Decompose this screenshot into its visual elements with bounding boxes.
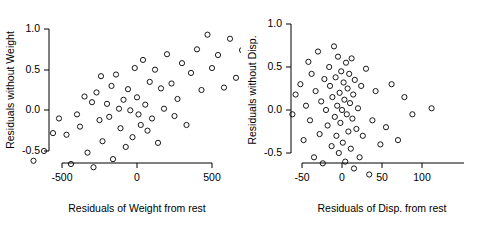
data-point bbox=[313, 88, 318, 93]
data-point bbox=[349, 116, 354, 121]
data-point bbox=[340, 140, 345, 145]
data-point bbox=[121, 97, 126, 102]
data-point bbox=[136, 112, 141, 117]
data-point bbox=[130, 135, 135, 140]
panel-weight: -500 0 500 -0.5 0.0 0.5 1.0 Residuals of… bbox=[0, 0, 242, 240]
x-tick-label: -500 bbox=[51, 171, 72, 183]
data-point bbox=[297, 82, 302, 87]
data-point bbox=[338, 69, 343, 74]
data-point bbox=[357, 155, 362, 160]
y-axis-weight: -0.5 0.0 0.5 1.0 bbox=[22, 22, 49, 156]
data-point bbox=[100, 139, 105, 144]
data-point bbox=[97, 117, 102, 122]
y-axis-label: Residuals without Weight bbox=[4, 31, 16, 149]
data-point bbox=[303, 103, 308, 108]
data-point bbox=[89, 100, 94, 105]
y-tick-label: 1.0 bbox=[267, 17, 282, 29]
data-point bbox=[107, 114, 112, 119]
y-axis-disp: -0.5 0.0 0.5 1.0 bbox=[263, 17, 290, 158]
data-point bbox=[311, 155, 316, 160]
data-point bbox=[363, 66, 368, 71]
data-point bbox=[349, 56, 354, 61]
y-tick-label: 0.0 bbox=[25, 103, 40, 115]
data-point bbox=[307, 118, 312, 123]
data-point bbox=[341, 97, 346, 102]
data-point bbox=[143, 102, 148, 107]
data-point bbox=[125, 87, 130, 92]
x-tick-label: 0 bbox=[339, 171, 345, 183]
data-point bbox=[309, 71, 314, 76]
data-point bbox=[31, 158, 36, 163]
data-point bbox=[56, 116, 61, 121]
data-point bbox=[209, 65, 214, 70]
data-point bbox=[91, 165, 96, 170]
data-point bbox=[409, 112, 414, 117]
data-point bbox=[132, 65, 137, 70]
data-point bbox=[145, 128, 150, 133]
data-point bbox=[373, 88, 378, 93]
y-tick-label: 1.0 bbox=[25, 22, 40, 34]
data-point bbox=[339, 107, 344, 112]
data-point bbox=[94, 90, 99, 95]
data-point bbox=[128, 108, 133, 113]
scatter-plot-weight: -500 0 500 -0.5 0.0 0.5 1.0 Residuals of… bbox=[0, 0, 241, 240]
data-point bbox=[336, 150, 341, 155]
data-point bbox=[123, 144, 128, 149]
data-point bbox=[110, 157, 115, 162]
data-point bbox=[113, 72, 118, 77]
data-point bbox=[175, 96, 180, 101]
data-point bbox=[104, 101, 109, 106]
data-point bbox=[68, 161, 73, 166]
data-point bbox=[227, 36, 232, 41]
x-axis-disp: -50 0 50 100 bbox=[294, 163, 464, 183]
scatter-panel-group: -500 0 500 -0.5 0.0 0.5 1.0 Residuals of… bbox=[0, 0, 483, 240]
data-point bbox=[329, 144, 334, 149]
data-point bbox=[329, 95, 334, 100]
data-point bbox=[347, 101, 352, 106]
data-point bbox=[194, 47, 199, 52]
data-points-weight bbox=[31, 18, 241, 170]
data-points-disp bbox=[289, 44, 433, 177]
x-tick-label: 50 bbox=[376, 171, 388, 183]
x-axis-weight: -500 0 500 bbox=[51, 163, 220, 183]
data-point bbox=[355, 106, 360, 111]
data-point bbox=[140, 57, 145, 62]
data-point bbox=[327, 83, 332, 88]
data-point bbox=[377, 142, 382, 147]
y-tick-label: -0.5 bbox=[263, 146, 281, 158]
data-point bbox=[116, 106, 121, 111]
data-point bbox=[334, 103, 339, 108]
data-point bbox=[348, 146, 353, 151]
data-point bbox=[333, 75, 338, 80]
data-point bbox=[169, 81, 174, 86]
x-tick-label: -50 bbox=[294, 171, 309, 183]
data-point bbox=[429, 106, 434, 111]
data-point bbox=[118, 126, 123, 131]
data-point bbox=[138, 122, 143, 127]
data-point bbox=[50, 131, 55, 136]
data-point bbox=[351, 166, 356, 171]
data-point bbox=[345, 129, 350, 134]
data-point bbox=[205, 32, 210, 37]
data-point bbox=[344, 112, 349, 117]
data-point bbox=[360, 133, 365, 138]
data-point bbox=[215, 52, 220, 57]
data-point bbox=[366, 172, 371, 177]
data-point bbox=[318, 99, 323, 104]
y-axis-label: Residuals without Disp. bbox=[246, 35, 258, 144]
data-point bbox=[369, 118, 374, 123]
x-axis-label: Residuals of Weight from rest bbox=[68, 202, 206, 214]
data-point bbox=[179, 61, 184, 66]
data-point bbox=[85, 150, 90, 155]
data-point bbox=[152, 67, 157, 72]
data-point bbox=[305, 59, 310, 64]
data-point bbox=[353, 126, 358, 131]
data-point bbox=[317, 131, 322, 136]
data-point bbox=[321, 76, 326, 81]
data-point bbox=[158, 86, 163, 91]
x-tick-label: 0 bbox=[134, 171, 140, 183]
data-point bbox=[74, 112, 79, 117]
data-point bbox=[315, 49, 320, 54]
data-point bbox=[325, 123, 330, 128]
data-point bbox=[77, 124, 82, 129]
